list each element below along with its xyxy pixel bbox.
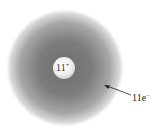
nucleus-charge-number: 11: [56, 62, 66, 73]
atom-graphic: [0, 0, 161, 129]
electron-count-label: 11e−: [132, 93, 149, 103]
electron-charge-sign: −: [146, 92, 149, 98]
nucleus-charge-sign: +: [66, 62, 69, 68]
nucleus-charge-label: 11+: [56, 63, 69, 73]
electron-count: 11e: [132, 92, 146, 103]
atom-diagram: 11+ 11e−: [0, 0, 161, 129]
